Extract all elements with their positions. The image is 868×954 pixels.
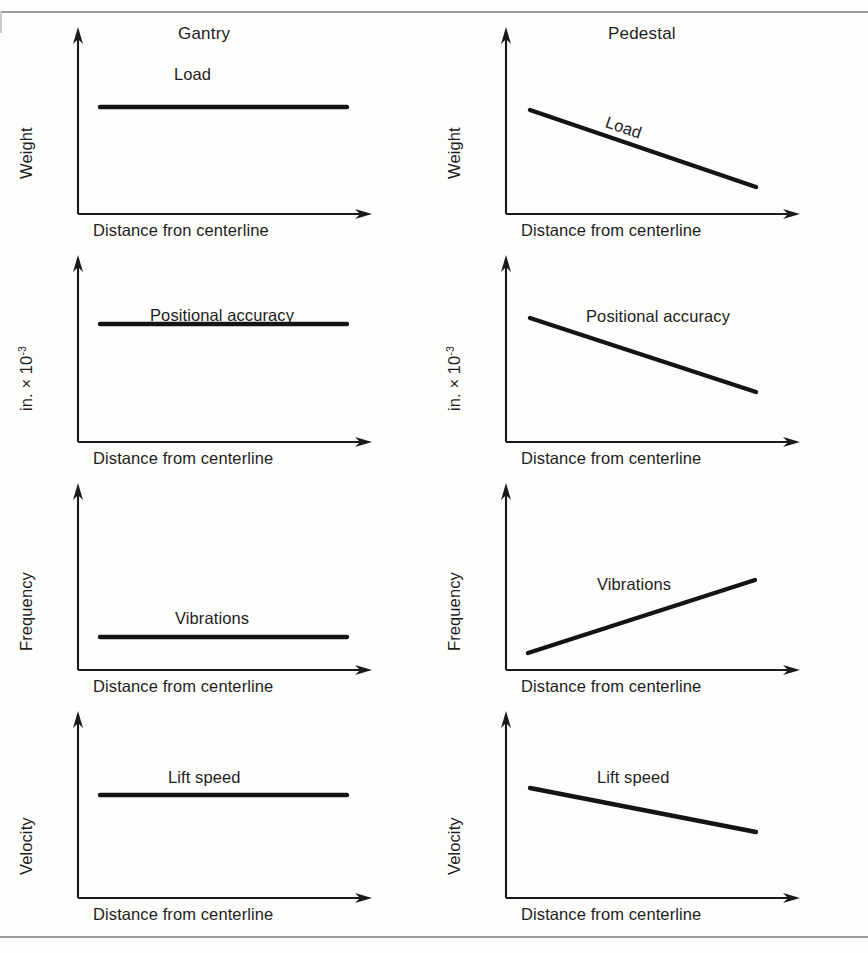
series-line-lift-speed: [530, 788, 756, 832]
series-label-vibrations-pedestal: Vibrations: [597, 575, 671, 594]
x-axis-label-pedestal-weight: Distance from centerline: [521, 221, 701, 240]
chart-gantry-vibrations: [0, 480, 400, 695]
series-line-load: [530, 110, 756, 187]
axes: [78, 488, 365, 670]
y-axis-label-frequency-gantry: Frequency: [17, 572, 36, 651]
y-axis-label-weight-pedestal: Weight: [445, 127, 464, 179]
page-rule-top: [0, 11, 868, 13]
y-axis-label-inches-pedestal-base: in. × 10: [445, 356, 463, 411]
series-label-positional-accuracy-pedestal: Positional accuracy: [586, 307, 730, 326]
series-label-load-gantry: Load: [174, 65, 211, 84]
x-axis-label-pedestal-vibrations: Distance from centerline: [521, 677, 701, 696]
y-axis-label-inches-gantry-base: in. × 10: [17, 356, 35, 411]
chart-pedestal-positional-accuracy: [428, 252, 828, 467]
x-axis-label-gantry-positional-accuracy: Distance from centerline: [93, 449, 273, 468]
y-axis-label-inches-pedestal: in. × 10-3: [445, 346, 464, 411]
series-label-lift-speed-pedestal: Lift speed: [597, 768, 670, 787]
y-axis-label-inches-pedestal-exponent: -3: [444, 346, 456, 356]
x-axis-label-gantry-vibrations: Distance from centerline: [93, 677, 273, 696]
axes: [78, 32, 365, 214]
axes: [506, 716, 793, 898]
y-axis-label-frequency-pedestal: Frequency: [445, 572, 464, 651]
y-axis-label-weight-gantry: Weight: [17, 127, 36, 179]
x-axis-label-pedestal-lift-speed: Distance from centerline: [521, 905, 701, 924]
y-axis-label-inches-gantry-exponent: -3: [16, 346, 28, 356]
page-rule-bottom: [0, 936, 868, 938]
axes: [506, 260, 793, 442]
series-label-positional-accuracy-gantry: Positional accuracy: [150, 306, 294, 325]
chart-gantry-positional-accuracy: [0, 252, 400, 467]
chart-gantry-weight: [0, 24, 400, 239]
series-label-vibrations-gantry: Vibrations: [175, 609, 249, 628]
series-label-lift-speed-gantry: Lift speed: [168, 768, 241, 787]
y-axis-label-velocity-gantry: Velocity: [17, 817, 36, 875]
axes: [78, 716, 365, 898]
chart-gantry-lift-speed: [0, 708, 400, 923]
axes: [78, 260, 365, 442]
x-axis-label-gantry-weight: Distance fron centerline: [93, 221, 269, 240]
series-line-positional-accuracy: [530, 318, 756, 392]
y-axis-label-velocity-pedestal: Velocity: [445, 817, 464, 875]
x-axis-label-pedestal-positional-accuracy: Distance from centerline: [521, 449, 701, 468]
figure-page: Gantry Pedestal Weight Load Distance fro…: [0, 0, 868, 954]
y-axis-label-inches-gantry: in. × 10-3: [17, 346, 36, 411]
x-axis-label-gantry-lift-speed: Distance from centerline: [93, 905, 273, 924]
chart-pedestal-lift-speed: [428, 708, 828, 923]
